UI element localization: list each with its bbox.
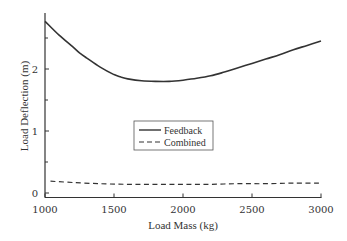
legend-label-combined: Combined — [164, 137, 206, 148]
axes — [45, 13, 322, 198]
series-feedback — [45, 21, 321, 81]
x-tick-label: 2500 — [239, 204, 264, 215]
data-series — [45, 21, 321, 184]
x-tick-label: 3000 — [308, 204, 333, 215]
x-tick-label: 1500 — [101, 204, 126, 215]
y-tick-label: 2 — [32, 64, 38, 75]
y-tick-label: 1 — [32, 126, 38, 137]
y-axis-title: Load Deflection (m) — [18, 60, 31, 151]
line-chart: 10001500200025003000012 Feedback Combine… — [0, 0, 347, 241]
x-tick-label: 1000 — [32, 204, 57, 215]
x-axis-title: Load Mass (kg) — [148, 219, 218, 232]
x-tick-label: 2000 — [170, 204, 195, 215]
y-tick-label: 0 — [32, 188, 38, 199]
series-combined — [51, 181, 322, 184]
legend-label-feedback: Feedback — [164, 125, 202, 136]
legend: Feedback Combined — [134, 121, 213, 150]
